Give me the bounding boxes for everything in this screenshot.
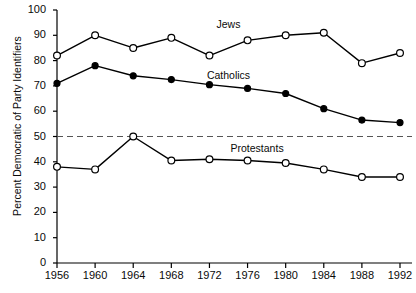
data-point-protestants-1972[interactable] [206,156,213,163]
data-point-jews-1968[interactable] [168,34,175,41]
data-point-catholics-1956[interactable] [54,80,60,86]
data-point-jews-1956[interactable] [54,52,61,59]
series-line-catholics [57,66,400,123]
data-point-jews-1980[interactable] [282,32,289,39]
series-line-jews [57,33,400,63]
data-point-jews-1992[interactable] [397,50,404,57]
data-point-protestants-1976[interactable] [244,157,251,164]
data-point-catholics-1964[interactable] [130,73,136,79]
data-point-protestants-1968[interactable] [168,157,175,164]
data-point-catholics-1968[interactable] [168,77,174,83]
data-point-jews-1984[interactable] [320,29,327,36]
data-point-catholics-1972[interactable] [206,82,212,88]
data-point-protestants-1964[interactable] [130,133,137,140]
data-point-jews-1976[interactable] [244,37,251,44]
plot-area [0,0,416,293]
data-point-protestants-1960[interactable] [92,166,99,173]
data-point-protestants-1992[interactable] [397,174,404,181]
data-point-protestants-1984[interactable] [320,166,327,173]
data-point-jews-1988[interactable] [358,60,365,67]
data-point-catholics-1980[interactable] [283,90,289,96]
data-point-catholics-1992[interactable] [397,120,403,126]
data-point-protestants-1988[interactable] [358,174,365,181]
data-point-protestants-1956[interactable] [54,163,61,170]
data-point-jews-1960[interactable] [92,32,99,39]
data-point-protestants-1980[interactable] [282,160,289,167]
data-point-catholics-1988[interactable] [359,117,365,123]
series-line-protestants [57,137,400,177]
chart-container: Percent Democratic of Party Identifiers … [0,0,416,293]
data-point-catholics-1960[interactable] [92,63,98,69]
data-point-catholics-1976[interactable] [245,85,251,91]
data-point-jews-1964[interactable] [130,45,137,52]
data-point-catholics-1984[interactable] [321,106,327,112]
data-point-jews-1972[interactable] [206,52,213,59]
